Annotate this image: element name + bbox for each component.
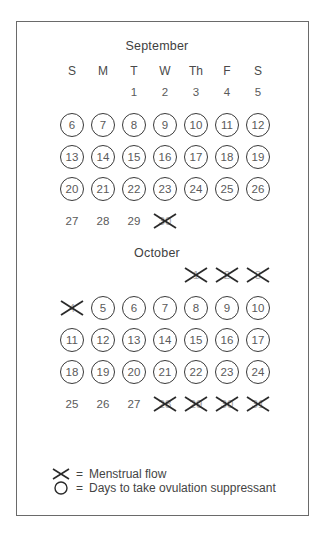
day-cell: 27 <box>121 391 147 417</box>
day-cell: 31 <box>245 391 271 417</box>
day-cell-circled: 20 <box>60 177 84 201</box>
day-number: 18 <box>66 366 79 378</box>
cross-icon <box>60 299 84 317</box>
day-number: 17 <box>190 151 203 163</box>
day-cell-circled: 24 <box>184 177 208 201</box>
day-cell-circled: 18 <box>60 360 84 384</box>
day-number: 26 <box>252 183 265 195</box>
day-cell-circled: 21 <box>91 177 115 201</box>
day-cell: 1 <box>183 262 209 288</box>
day-cell-circled: 24 <box>246 360 270 384</box>
cross-icon <box>184 395 208 413</box>
day-number: 10 <box>252 302 265 314</box>
cross-icon <box>184 266 208 284</box>
day-number: 25 <box>66 398 79 410</box>
day-cell-circled: 9 <box>153 113 177 137</box>
day-cell-circled: 9 <box>215 296 239 320</box>
day-number: 7 <box>162 302 168 314</box>
day-number: 11 <box>221 119 233 131</box>
day-cell-circled: 25 <box>215 177 239 201</box>
day-cell: 1 <box>121 79 147 105</box>
day-number: 6 <box>131 302 137 314</box>
legend-label: Days to take ovulation suppressant <box>89 481 276 495</box>
circle-icon <box>52 481 70 495</box>
legend-equals: = <box>76 467 83 481</box>
day-number: 21 <box>97 183 110 195</box>
legend: = Menstrual flow = Days to take ovulatio… <box>52 467 276 495</box>
day-cell-circled: 18 <box>215 145 239 169</box>
day-cell-circled: 17 <box>246 328 270 352</box>
cross-icon <box>215 395 239 413</box>
day-number: 7 <box>100 119 106 131</box>
day-cell-circled: 21 <box>153 360 177 384</box>
day-number: 19 <box>97 366 110 378</box>
day-cell: 28 <box>90 208 116 234</box>
day-number: 13 <box>66 151 79 163</box>
day-cell-circled: 15 <box>122 145 146 169</box>
cross-icon <box>246 395 270 413</box>
weekday-header: M <box>90 58 116 84</box>
day-cell-circled: 16 <box>215 328 239 352</box>
day-number: 12 <box>97 334 110 346</box>
day-number: 24 <box>252 366 265 378</box>
day-cell: 4 <box>214 79 240 105</box>
day-cell-circled: 7 <box>91 113 115 137</box>
day-number: 28 <box>97 215 110 227</box>
day-number: 3 <box>193 86 199 98</box>
day-cell-circled: 11 <box>60 328 84 352</box>
day-number: 9 <box>224 302 230 314</box>
month-title-september: September <box>0 39 314 53</box>
day-number: 1 <box>131 86 137 98</box>
day-number: 20 <box>128 366 141 378</box>
day-number: 18 <box>221 151 234 163</box>
day-cell: 27 <box>59 208 85 234</box>
legend-label: Menstrual flow <box>89 467 166 481</box>
day-cell: 2 <box>152 79 178 105</box>
day-number: 5 <box>255 86 261 98</box>
day-number: 29 <box>128 215 141 227</box>
day-cell: 4 <box>59 295 85 321</box>
day-cell: 29 <box>183 391 209 417</box>
day-cell-circled: 17 <box>184 145 208 169</box>
legend-item-menstrual-flow: = Menstrual flow <box>52 467 276 481</box>
day-number: 21 <box>159 366 172 378</box>
day-cell-circled: 6 <box>122 296 146 320</box>
day-number: 14 <box>97 151 110 163</box>
day-cell-circled: 5 <box>91 296 115 320</box>
day-cell-circled: 6 <box>60 113 84 137</box>
day-cell-circled: 20 <box>122 360 146 384</box>
day-cell: 2 <box>214 262 240 288</box>
day-number: 4 <box>224 86 230 98</box>
day-cell-circled: 7 <box>153 296 177 320</box>
day-number: 19 <box>252 151 265 163</box>
day-cell-circled: 14 <box>91 145 115 169</box>
cross-icon <box>153 212 177 230</box>
day-cell: 3 <box>183 79 209 105</box>
cross-icon <box>153 395 177 413</box>
day-number: 11 <box>66 334 78 346</box>
day-cell-circled: 8 <box>184 296 208 320</box>
day-cell: 28 <box>152 391 178 417</box>
day-number: 13 <box>128 334 141 346</box>
day-number: 23 <box>221 366 234 378</box>
cross-icon <box>246 266 270 284</box>
day-number: 26 <box>97 398 110 410</box>
day-cell-circled: 13 <box>122 328 146 352</box>
day-number: 9 <box>162 119 168 131</box>
day-cell: 3 <box>245 262 271 288</box>
day-number: 25 <box>221 183 234 195</box>
day-cell-circled: 22 <box>122 177 146 201</box>
day-number: 22 <box>190 366 203 378</box>
weekday-header: S <box>59 58 85 84</box>
day-cell: 30 <box>152 208 178 234</box>
day-number: 14 <box>159 334 172 346</box>
day-cell: 5 <box>245 79 271 105</box>
month-title-october: October <box>0 246 314 260</box>
day-cell-circled: 23 <box>153 177 177 201</box>
cross-icon <box>215 266 239 284</box>
day-cell-circled: 11 <box>215 113 239 137</box>
day-number: 16 <box>159 151 172 163</box>
day-number: 22 <box>128 183 141 195</box>
day-number: 8 <box>193 302 199 314</box>
day-cell-circled: 19 <box>246 145 270 169</box>
